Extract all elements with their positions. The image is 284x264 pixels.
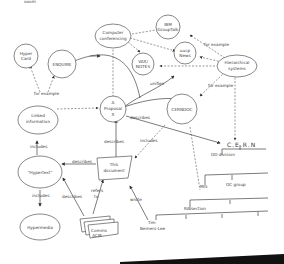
node-ra-section: RA section [184, 206, 206, 211]
node-vax-notes: VAX/ NOTES [132, 53, 154, 75]
node-cerndoc: CERNDOC [167, 94, 197, 124]
proposal-diagram: ooom [0, 0, 284, 264]
svg-text:for example: for example [208, 83, 234, 88]
svg-text:describes: describes [104, 139, 124, 144]
node-comms-acm: Comms ACM [80, 216, 118, 238]
svg-text:systems: systems [228, 66, 245, 71]
svg-text:information: information [26, 119, 51, 124]
svg-text:Proposal: Proposal [104, 106, 122, 111]
node-dd-division: DD division [211, 152, 235, 157]
svg-text:NOTES: NOTES [136, 64, 151, 69]
header-cut-text: ooom [24, 0, 36, 4]
node-enquire: ENQUIRE [48, 50, 76, 78]
svg-text:Hierarchical: Hierarchical [225, 60, 250, 65]
svg-text:describes: describes [62, 194, 82, 199]
node-hierarchical-systems: Hierarchical systems [217, 55, 257, 77]
svg-text:includes: includes [30, 144, 47, 149]
svg-text:describes: describes [72, 159, 92, 164]
svg-text:document: document [103, 168, 124, 173]
svg-text:Card: Card [21, 56, 31, 61]
svg-text:News: News [179, 53, 190, 58]
node-hypermedia: Hypermedia [20, 214, 60, 240]
svg-text:includes: includes [140, 138, 157, 143]
node-proposal: A Proposal X [100, 96, 126, 122]
page-edge-shadow [120, 254, 284, 264]
svg-text:Linked: Linked [31, 113, 45, 118]
node-hypercard: Hyper Card [14, 44, 38, 68]
node-hypertext: "Hypertext" [18, 156, 62, 188]
svg-text:A: A [112, 100, 115, 105]
svg-text:describes: describes [130, 115, 150, 120]
node-this-document: This document [97, 156, 132, 180]
node-linked-information: Linked information [18, 106, 58, 134]
svg-text:for example: for example [34, 91, 60, 96]
svg-text:wrote: wrote [130, 197, 142, 202]
svg-text:"Hypertext": "Hypertext" [28, 170, 53, 175]
svg-text:refers: refers [91, 188, 103, 193]
node-tim-line1: Tim [147, 220, 156, 225]
svg-text:unifies: unifies [150, 81, 164, 86]
svg-text:to: to [94, 194, 99, 199]
node-uucp-news: uucp News [174, 42, 196, 64]
node-ibm-grouptalk: IBM GroupTalk [156, 15, 180, 39]
svg-text:GroupTalk: GroupTalk [158, 27, 179, 32]
svg-text:ACM: ACM [92, 233, 102, 238]
svg-text:X: X [112, 112, 115, 117]
node-cern: C.E.R.N [227, 141, 256, 148]
svg-text:conferencing: conferencing [99, 36, 127, 41]
svg-text:CERNDOC: CERNDOC [171, 107, 192, 112]
node-computer-conferencing: Computer conferencing [95, 24, 131, 48]
node-oc-group: OC group [226, 182, 246, 187]
node-tim-line2: Berners-Lee [140, 226, 166, 231]
svg-text:This: This [109, 162, 119, 167]
svg-text:Hypermedia: Hypermedia [27, 225, 53, 230]
node-mis: MIS [200, 184, 208, 189]
svg-text:ENQUIRE: ENQUIRE [53, 62, 72, 67]
svg-text:includes: includes [32, 193, 49, 198]
svg-text:for example: for example [204, 42, 230, 47]
svg-text:Computer: Computer [103, 30, 124, 35]
